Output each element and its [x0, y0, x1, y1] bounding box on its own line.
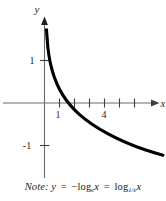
x-axis-arrowhead — [151, 100, 160, 107]
curve-asymptote-segment — [46, 29, 47, 40]
caption-equals-second: = — [102, 181, 112, 192]
caption-note-word: Note: — [25, 181, 49, 192]
y-tick-label-1: 1 — [30, 55, 35, 66]
log-curve — [47, 40, 163, 156]
caption-log-second: log — [115, 181, 129, 192]
graph-svg: y x 1 4 1 -1 — [0, 0, 166, 201]
y-axis-arrowhead — [41, 17, 48, 26]
caption-log-first-arg: x — [94, 181, 99, 192]
x-tick-label-1: 1 — [56, 109, 61, 120]
figure-caption: Note: y = −logex = log1/ex — [0, 181, 166, 193]
caption-log-second-arg: x — [137, 181, 142, 192]
x-tick-label-4: 4 — [102, 109, 107, 120]
caption-equals-first: = — [59, 181, 69, 192]
x-axis-label: x — [160, 97, 166, 109]
caption-lhs-variable: y — [51, 181, 56, 192]
y-axis-label: y — [34, 3, 40, 15]
caption-log-second-base: 1/e — [128, 186, 136, 193]
caption-log-first: log — [78, 181, 92, 192]
log-function-graph-figure: y x 1 4 1 -1 — [0, 0, 166, 201]
y-tick-label-negative-1: -1 — [23, 140, 31, 151]
